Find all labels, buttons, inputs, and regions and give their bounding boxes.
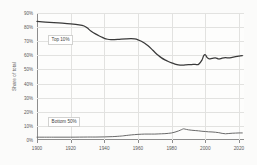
y-tick-label: 0% xyxy=(12,138,33,143)
y-tick-label: 30% xyxy=(12,95,33,100)
x-tick-mark xyxy=(205,140,206,143)
x-tick-label: 1960 xyxy=(125,146,151,151)
y-tick-label: 70% xyxy=(12,39,33,44)
y-tick-label: 50% xyxy=(12,67,33,72)
y-tick-label: 10% xyxy=(12,123,33,128)
x-tick-mark xyxy=(172,140,173,143)
x-tick-mark xyxy=(37,140,38,143)
x-tick-mark xyxy=(239,140,240,143)
y-tick-label: 40% xyxy=(12,81,33,86)
chart-container: Share of total 0%10%20%30%40%50%60%70%80… xyxy=(0,0,257,165)
series-line-bottom-50 xyxy=(37,129,242,137)
x-tick-mark xyxy=(138,140,139,143)
x-tick-label: 2000 xyxy=(192,146,218,151)
y-tick-label: 60% xyxy=(12,53,33,58)
y-tick-label: 20% xyxy=(12,109,33,114)
x-tick-label: 1900 xyxy=(24,146,50,151)
x-tick-mark xyxy=(104,140,105,143)
x-tick-label: 1940 xyxy=(91,146,117,151)
x-tick-mark xyxy=(71,140,72,143)
x-tick-label: 2020 xyxy=(226,146,252,151)
plot-area: 0%10%20%30%40%50%60%70%80%90% 1900192019… xyxy=(37,13,244,140)
series-label-bottom-50: Bottom 50% xyxy=(48,117,80,127)
y-axis-label: Share of total xyxy=(12,41,17,113)
x-tick-label: 1920 xyxy=(58,146,84,151)
y-tick-label: 90% xyxy=(12,11,33,16)
y-tick-label: 80% xyxy=(12,25,33,30)
series-label-top-10: Top 10% xyxy=(48,35,73,45)
x-tick-label: 1980 xyxy=(159,146,185,151)
